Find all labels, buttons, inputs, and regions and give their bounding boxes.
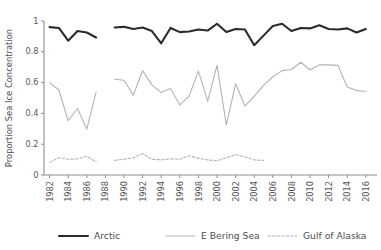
x-tick-label: 2014 [342, 181, 352, 202]
y-axis-ticks: 00.20.40.60.81 [25, 16, 44, 180]
series-line-gulf-of-alaska [115, 154, 264, 161]
x-tick-label: 1986 [82, 181, 92, 202]
x-tick-label: 1992 [138, 181, 148, 202]
x-axis-ticks: 1982198419861988199019921994199619982000… [45, 175, 371, 202]
series-line-e-bering-sea [50, 83, 97, 130]
chart-legend: ArcticE Bering SeaGulf of Alaska [59, 230, 366, 241]
x-tick-label: 1988 [100, 181, 110, 202]
axis-lines [44, 21, 377, 175]
y-tick-label: 0 [33, 170, 38, 180]
series-line-gulf-of-alaska [50, 156, 97, 162]
legend-label-arctic: Arctic [94, 230, 120, 241]
x-tick-label: 2002 [231, 181, 241, 202]
series-line-e-bering-sea [115, 62, 366, 125]
x-tick-label: 2006 [268, 181, 278, 202]
x-tick-label: 2000 [212, 181, 222, 202]
x-tick-label: 1982 [45, 181, 55, 202]
data-series-group [50, 24, 366, 163]
x-tick-label: 2012 [324, 181, 334, 202]
x-tick-label: 1994 [156, 181, 166, 202]
legend-label-e-bering-sea: E Bering Sea [201, 230, 260, 241]
y-tick-label: 0.8 [25, 46, 38, 56]
series-line-arctic [50, 27, 97, 41]
chart-plot-area: 00.20.40.60.81 1982198419861988199019921… [0, 0, 381, 250]
y-axis-title: Proportion Sea Ice Concentration [4, 29, 14, 167]
y-tick-label: 0.4 [25, 108, 38, 118]
x-tick-label: 1998 [194, 181, 204, 202]
y-tick-label: 0.2 [25, 139, 38, 149]
x-tick-label: 2008 [287, 181, 297, 202]
x-tick-label: 1984 [63, 181, 73, 202]
x-tick-label: 2010 [305, 181, 315, 202]
series-line-arctic [115, 24, 366, 45]
x-tick-label: 2016 [361, 181, 371, 202]
x-tick-label: 2004 [249, 181, 259, 202]
y-tick-label: 1 [33, 16, 38, 26]
legend-label-gulf-of-alaska: Gulf of Alaska [303, 230, 366, 241]
sea-ice-concentration-chart: 00.20.40.60.81 1982198419861988199019921… [0, 0, 381, 250]
y-tick-label: 0.6 [25, 77, 38, 87]
x-tick-label: 1996 [175, 181, 185, 202]
x-tick-label: 1990 [119, 181, 129, 202]
